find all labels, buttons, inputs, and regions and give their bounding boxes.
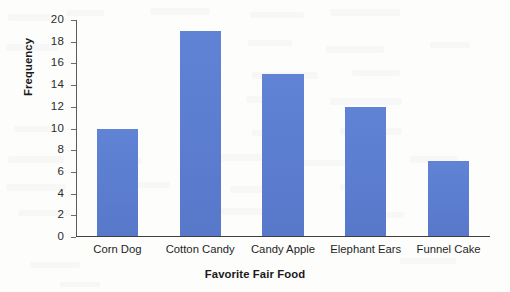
y-tick-label: 10 (34, 123, 64, 135)
x-category-label: Cotton Candy (159, 244, 242, 255)
x-category-label: Funnel Cake (407, 244, 490, 255)
plot-area (76, 20, 490, 237)
y-tick-label: 16 (34, 57, 64, 69)
y-tick-label: 8 (34, 144, 64, 156)
y-tick-label: 2 (34, 209, 64, 221)
bar (428, 161, 469, 237)
x-axis-line (76, 236, 490, 237)
y-axis-title: Frequency (22, 38, 34, 96)
bar (262, 74, 303, 237)
bar (97, 129, 138, 238)
x-category-label: Candy Apple (242, 244, 325, 255)
bar (345, 107, 386, 237)
y-tick-label: 14 (34, 79, 64, 91)
y-tick-label: 12 (34, 101, 64, 113)
y-tick-label: 18 (34, 36, 64, 48)
y-tick-label: 0 (34, 231, 64, 243)
x-category-label: Elephant Ears (324, 244, 407, 255)
y-tick-label: 4 (34, 188, 64, 200)
y-tick-mark (71, 237, 76, 238)
bar-chart: Frequency 02468101214161820 Corn DogCott… (0, 0, 510, 292)
x-axis-title: Favorite Fair Food (0, 268, 510, 280)
y-tick-label: 6 (34, 166, 64, 178)
y-tick-label: 20 (34, 14, 64, 26)
bar (180, 31, 221, 237)
x-category-label: Corn Dog (76, 244, 159, 255)
